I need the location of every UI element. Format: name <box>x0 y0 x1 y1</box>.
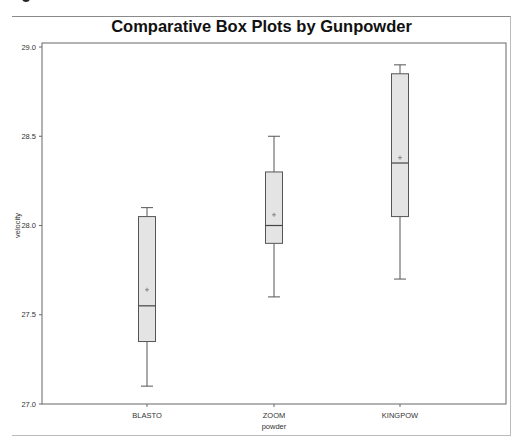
iqr-box <box>266 172 283 243</box>
iqr-box <box>139 217 156 342</box>
x-axis-title: powder <box>262 422 287 431</box>
x-tick-label: KINGPOW <box>382 411 419 420</box>
y-tick-label: 28.0 <box>21 221 36 230</box>
iqr-box <box>392 74 409 217</box>
y-tick-label: 28.5 <box>21 132 36 141</box>
y-axis-title: velocity <box>13 213 22 238</box>
y-tick-label: 27.0 <box>21 400 36 409</box>
x-tick-label: BLASTO <box>132 411 162 420</box>
x-tick-label: ZOOM <box>263 411 286 420</box>
box-plot: 27.027.528.028.529.0velocityBLASTOZOOMKI… <box>0 0 520 442</box>
y-tick-label: 27.5 <box>21 310 36 319</box>
y-tick-label: 29.0 <box>21 43 36 52</box>
